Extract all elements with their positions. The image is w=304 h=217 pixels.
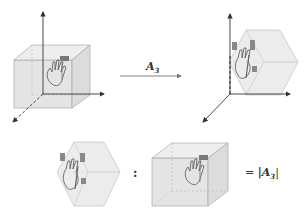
transformed-cube-panel <box>203 14 298 122</box>
transformed-volume <box>57 142 120 206</box>
transform-label: A3 <box>146 60 159 75</box>
transform-label-subscript: 3 <box>155 66 160 75</box>
determinant-equation: = |A3| <box>245 166 279 181</box>
determinant-close: | <box>275 166 279 179</box>
original-volume <box>152 143 228 206</box>
equals-sign: = <box>245 166 254 179</box>
ratio-symbol: : <box>133 166 137 180</box>
original-cube-panel <box>13 12 104 122</box>
diagram-canvas <box>0 0 304 217</box>
determinant-label: |A <box>258 166 271 179</box>
transform-label-main: A <box>146 60 155 73</box>
